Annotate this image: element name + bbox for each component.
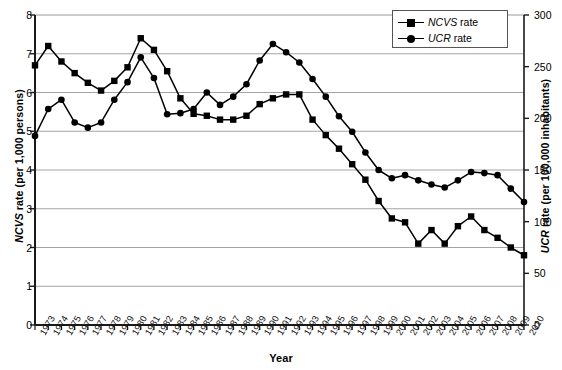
legend-label-ncvs: NCVS rate bbox=[428, 16, 478, 28]
x-axis-title: Year bbox=[0, 352, 562, 364]
chart-legend: NCVS rate UCR rate bbox=[392, 10, 508, 48]
x-axis-ticks: 1973197419751976197719781979198019811982… bbox=[0, 0, 562, 370]
legend-label-ucr: UCR rate bbox=[428, 32, 472, 44]
y-axis-left-title: NCVS rate (per 1,000 persons) bbox=[13, 51, 25, 281]
y-axis-right-title: UCR rate (per 100,000 inhabitants) bbox=[539, 51, 551, 281]
legend-item-ucr: UCR rate bbox=[398, 30, 502, 46]
legend-square-marker-icon bbox=[398, 16, 424, 28]
y-axis-right-title-abbrev: UCR bbox=[539, 230, 551, 253]
legend-item-ncvs: NCVS rate bbox=[398, 14, 502, 30]
legend-circle-marker-icon bbox=[398, 32, 424, 44]
y-axis-right-title-rest: rate (per 100,000 inhabitants) bbox=[539, 79, 551, 230]
y-axis-left-title-abbrev: NCVS bbox=[13, 213, 25, 243]
y-axis-left-title-rest: rate (per 1,000 persons) bbox=[13, 89, 25, 213]
chart-container: 012345678 050100150200250300 19731974197… bbox=[0, 0, 562, 370]
